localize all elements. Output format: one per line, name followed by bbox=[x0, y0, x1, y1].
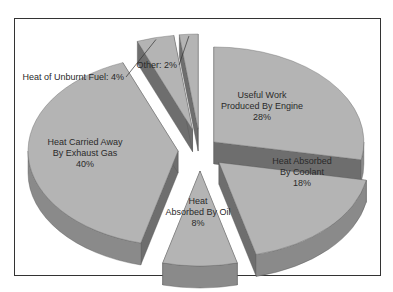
slice-label-line: Heat Carried Away bbox=[48, 137, 123, 147]
pie-chart: Useful WorkProduced By Engine28%Heat Abs… bbox=[0, 0, 393, 292]
slice-label-line: By Coolant bbox=[280, 167, 325, 177]
slice-label-line: Useful Work bbox=[238, 90, 287, 100]
slice-label: Heat of Unburnt Fuel: 4% bbox=[22, 72, 124, 82]
slice-label-line: 28% bbox=[253, 112, 271, 122]
slice-rim bbox=[163, 263, 238, 288]
slice-label-line: Heat bbox=[188, 196, 208, 206]
slice-label-line: Produced By Engine bbox=[221, 101, 303, 111]
pie-slice-heat-carried-away-by-exhaust-gas bbox=[28, 63, 178, 265]
slice-label-line: Heat Absorbed bbox=[272, 156, 332, 166]
slice-label-line: Heat of Unburnt Fuel: 4% bbox=[22, 72, 124, 82]
slice-label-line: Absorbed By Oil bbox=[165, 207, 230, 217]
slice-label: Other: 2% bbox=[136, 60, 177, 70]
slice-label-line: 18% bbox=[293, 178, 311, 188]
slice-label-line: 8% bbox=[191, 218, 204, 228]
slice-label-line: By Exhaust Gas bbox=[53, 148, 118, 158]
slice-label-line: 40% bbox=[76, 159, 94, 169]
slice-label-line: Other: 2% bbox=[136, 60, 177, 70]
